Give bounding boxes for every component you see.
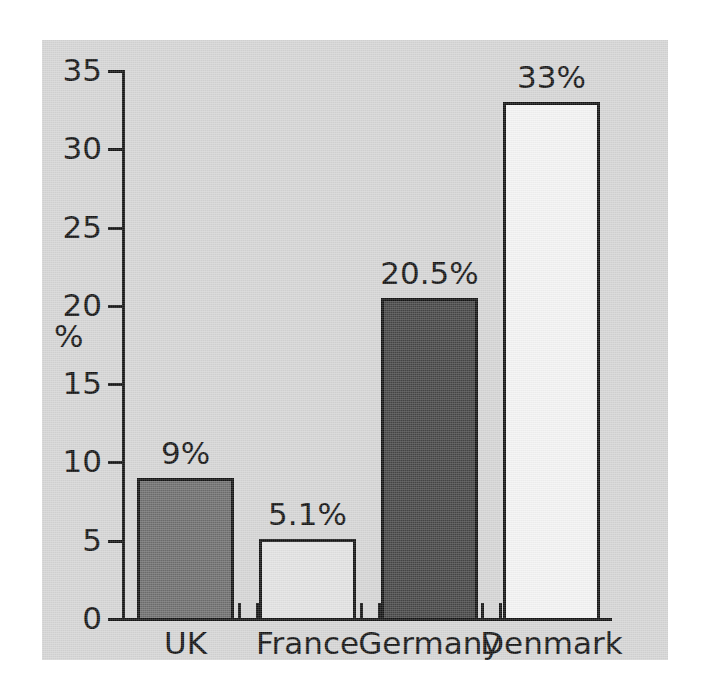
y-tick-mark: [108, 540, 125, 543]
y-tick-label: 10: [44, 446, 102, 477]
x-category-label-denmark: Denmark: [458, 628, 645, 659]
y-tick-mark: [108, 227, 125, 230]
bar-value-label-uk: 9%: [97, 438, 274, 469]
y-axis-title: %: [54, 321, 83, 352]
chart-figure: % 05101520253035 9%UK5.1%France20.5%Germ…: [0, 0, 713, 677]
y-tick-mark: [108, 383, 125, 386]
y-tick-mark: [108, 70, 125, 73]
bar-denmark[interactable]: [503, 102, 600, 621]
plot-area: % 05101520253035 9%UK5.1%France20.5%Germ…: [42, 40, 668, 660]
bar-value-label-denmark: 33%: [463, 62, 640, 93]
y-tick-label: 5: [44, 525, 102, 556]
y-tick-label: 25: [44, 212, 102, 243]
chart-panel: % 05101520253035 9%UK5.1%France20.5%Germ…: [42, 40, 668, 660]
x-tick-mark: [238, 603, 241, 621]
bar-value-label-france: 5.1%: [219, 499, 396, 530]
y-tick-label: 20: [44, 290, 102, 321]
y-tick-label: 35: [44, 55, 102, 86]
x-tick-mark: [481, 603, 484, 621]
y-tick-label: 15: [44, 368, 102, 399]
y-tick-label: 30: [44, 133, 102, 164]
y-tick-mark: [108, 305, 125, 308]
y-tick-mark: [108, 148, 125, 151]
x-tick-mark: [499, 603, 502, 621]
y-tick-mark: [108, 618, 125, 621]
y-axis-line: [122, 70, 125, 621]
bar-value-label-germany: 20.5%: [341, 258, 518, 289]
x-tick-mark: [360, 603, 363, 621]
bar-france[interactable]: [259, 539, 356, 621]
bar-germany[interactable]: [381, 298, 478, 621]
